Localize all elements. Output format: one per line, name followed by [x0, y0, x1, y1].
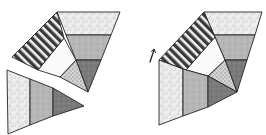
right-figure [150, 12, 262, 125]
rotated-triangle-section-2 [183, 69, 208, 116]
rotated-triangle-section-1 [159, 60, 183, 125]
detached-triangle-section-1 [7, 70, 30, 134]
left-top-band [57, 12, 120, 35]
detached-triangle-section-3 [53, 88, 84, 116]
diagram-canvas [0, 0, 266, 135]
rotation-arrow-icon [150, 49, 156, 62]
left-figure [7, 12, 120, 134]
dissection-diagram [0, 0, 266, 135]
detached-triangle-section-2 [30, 79, 53, 125]
